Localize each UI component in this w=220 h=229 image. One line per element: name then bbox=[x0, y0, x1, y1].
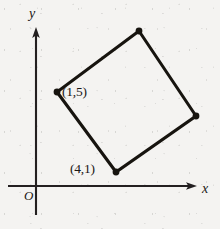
point-label-4-1: (4,1) bbox=[70, 162, 95, 176]
square-outline bbox=[57, 31, 196, 172]
vertex-dot-top bbox=[136, 28, 143, 35]
origin-label: O bbox=[24, 189, 33, 202]
vertex-dot-bottom bbox=[113, 169, 120, 176]
vertex-dot-left bbox=[54, 89, 61, 96]
point-label-1-5: (1,5) bbox=[62, 85, 87, 99]
y-axis-label: y bbox=[29, 7, 35, 21]
x-axis-label: x bbox=[202, 182, 208, 196]
vertex-dot-right bbox=[193, 113, 200, 120]
coordinate-figure: y x O (1,5) (4,1) bbox=[0, 0, 220, 229]
